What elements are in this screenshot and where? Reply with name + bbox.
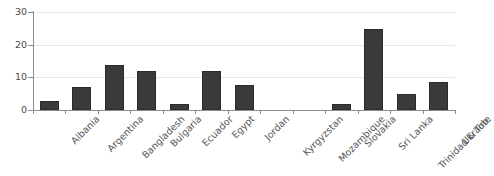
x-tick-mark — [260, 110, 261, 114]
x-axis-label: Sri Lanka — [397, 114, 435, 152]
x-tick-mark — [98, 110, 99, 114]
bar — [40, 101, 59, 110]
x-tick-mark — [65, 110, 66, 114]
x-tick-mark — [358, 110, 359, 114]
y-tick-label: 0 — [0, 105, 27, 115]
gridline-30 — [33, 12, 455, 13]
bar — [72, 87, 91, 110]
x-axis-label-text: Sri Lanka — [397, 114, 435, 152]
y-tick-label: 30 — [0, 7, 27, 17]
y-tick-mark — [28, 77, 33, 78]
x-tick-mark — [163, 110, 164, 114]
bar — [235, 85, 254, 110]
x-axis-label-text: Ukraine — [460, 114, 493, 147]
bar — [202, 71, 221, 110]
x-tick-mark — [130, 110, 131, 114]
x-axis-label: Egypt — [230, 114, 257, 141]
bar — [105, 65, 124, 110]
y-tick-label: 10 — [0, 72, 27, 82]
x-tick-mark — [423, 110, 424, 114]
x-axis-label-text: Albania — [70, 114, 102, 146]
x-axis-label: Jordan — [263, 114, 292, 143]
x-axis-label: Albania — [70, 114, 102, 146]
y-tick-label: 20 — [0, 40, 27, 50]
plot-area — [33, 12, 455, 110]
x-axis-label: Ukraine — [460, 114, 493, 147]
x-axis-label: Argentina — [105, 114, 145, 154]
x-tick-mark — [455, 110, 456, 114]
bar — [137, 71, 156, 110]
x-axis-label-text: Jordan — [263, 114, 292, 143]
x-axis-label-text: Egypt — [230, 114, 257, 141]
gridline-10 — [33, 77, 455, 78]
x-tick-mark — [325, 110, 326, 114]
bar — [364, 29, 383, 110]
bar — [429, 82, 448, 110]
y-axis-line — [33, 11, 34, 111]
gridline-20 — [33, 45, 455, 46]
y-tick-mark — [28, 45, 33, 46]
x-tick-mark — [33, 110, 34, 114]
x-tick-mark — [293, 110, 294, 114]
x-axis-line — [33, 110, 455, 111]
x-axis-label-text: Argentina — [105, 114, 145, 154]
y-tick-mark — [28, 12, 33, 13]
bar — [397, 94, 416, 110]
